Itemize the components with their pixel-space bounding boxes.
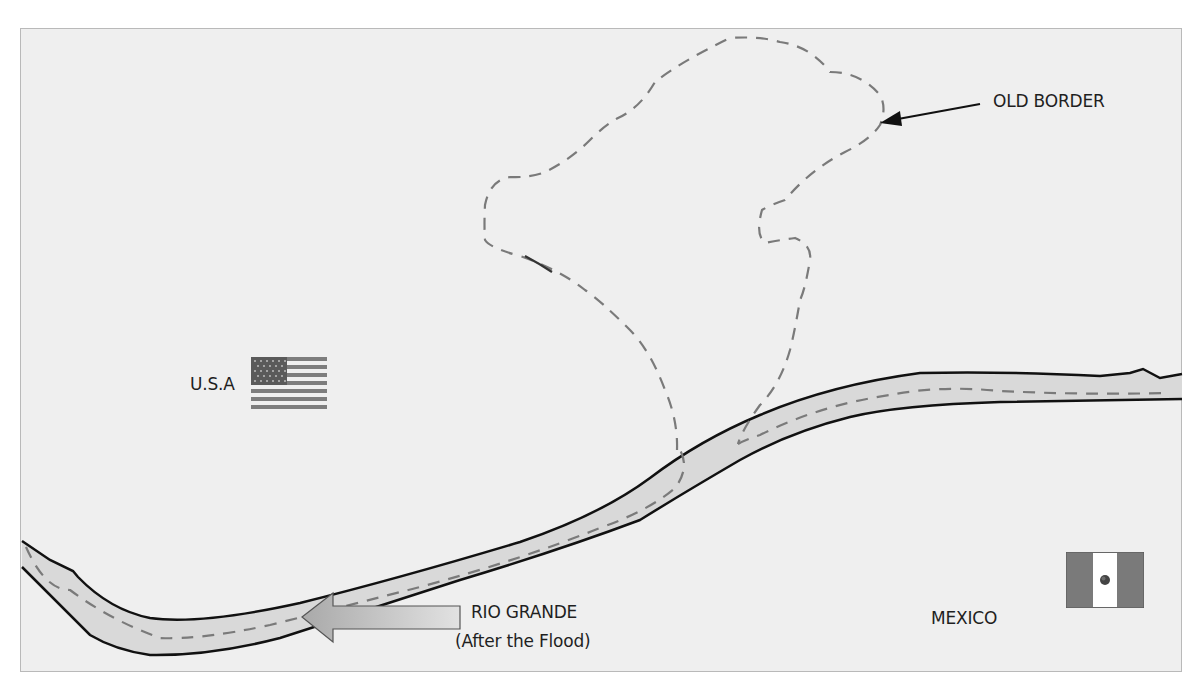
rio-grande-label: RIO GRANDE — [471, 602, 577, 622]
river-rio-grande — [22, 369, 1182, 655]
mexico-label: MEXICO — [931, 608, 997, 628]
arrow-left-icon — [880, 104, 980, 126]
old-border-line — [485, 38, 884, 451]
rio-grande-note: (After the Flood) — [455, 631, 591, 651]
river-north-bank — [22, 369, 1182, 620]
old-border-label: OLD BORDER — [993, 91, 1105, 111]
usa-label: U.S.A — [190, 374, 235, 394]
us-flag-icon — [251, 357, 327, 410]
old-border-dark-segment — [525, 256, 552, 272]
mexico-flag-icon — [1066, 552, 1144, 608]
